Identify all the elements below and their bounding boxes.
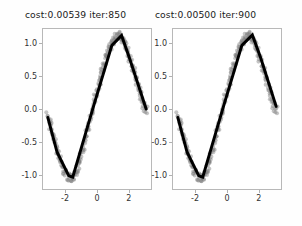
matplotlib-figure: cost:0.00539 iter:850 -1.0-0.50.00.51.0-… [0, 0, 302, 226]
y-tick-mark [169, 109, 172, 110]
y-tick-label: 0.0 [154, 105, 167, 114]
y-tick-label: -1.0 [151, 171, 167, 180]
x-tick-label: 0 [224, 194, 229, 203]
y-tick-label: 0.5 [24, 71, 37, 80]
x-tick-label: 2 [256, 194, 261, 203]
y-tick-mark [169, 76, 172, 77]
x-tick-mark [259, 190, 260, 193]
subplot-right-axes [172, 28, 282, 190]
y-tick-label: -0.5 [21, 138, 37, 147]
y-tick-mark [39, 109, 42, 110]
x-tick-mark [195, 190, 196, 193]
y-tick-label: -1.0 [21, 171, 37, 180]
y-tick-mark [39, 43, 42, 44]
subplot-right-plot-area [173, 29, 281, 189]
x-tick-label: -2 [61, 194, 69, 203]
y-tick-label: -0.5 [151, 138, 167, 147]
x-tick-label: 0 [94, 194, 99, 203]
x-tick-label: -2 [191, 194, 199, 203]
y-tick-label: 0.5 [154, 71, 167, 80]
y-tick-mark [39, 142, 42, 143]
x-tick-mark [97, 190, 98, 193]
subplot-right: cost:0.00500 iter:900 -1.0-0.50.00.51.0-… [130, 0, 281, 226]
y-tick-mark [169, 142, 172, 143]
y-tick-mark [39, 76, 42, 77]
y-tick-label: 1.0 [24, 38, 37, 47]
x-tick-mark [227, 190, 228, 193]
subplot-right-title: cost:0.00500 iter:900 [130, 9, 281, 20]
y-tick-label: 0.0 [24, 105, 37, 114]
x-tick-mark [65, 190, 66, 193]
y-tick-label: 1.0 [154, 38, 167, 47]
y-tick-mark [169, 175, 172, 176]
y-tick-mark [39, 175, 42, 176]
subplot-left: cost:0.00539 iter:850 -1.0-0.50.00.51.0-… [0, 0, 151, 226]
subplot-left-title: cost:0.00539 iter:850 [0, 9, 151, 20]
y-tick-mark [169, 43, 172, 44]
